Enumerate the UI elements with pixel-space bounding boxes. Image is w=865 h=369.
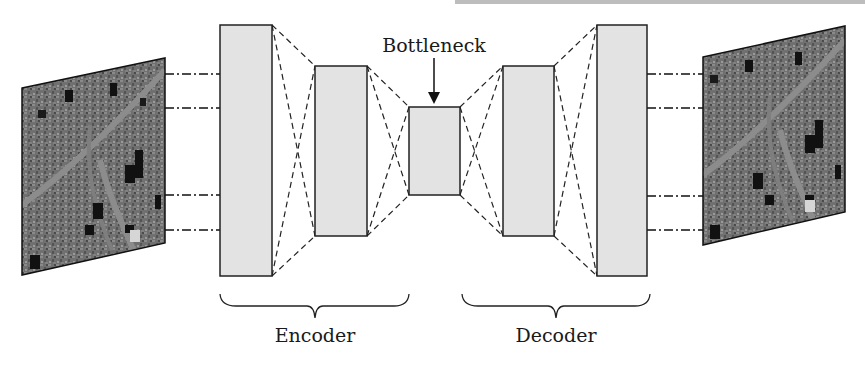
input-connectors [165,74,220,230]
output-connectors [647,74,703,230]
bottleneck-layer [409,107,460,195]
bottleneck-arrow-icon [428,58,440,104]
decoder-layer-2 [597,25,647,276]
bottleneck-label: Bottleneck [382,34,486,56]
decoder-layer-1 [503,66,554,236]
autoencoder-diagram: Bottleneck Encoder Decoder [0,0,865,369]
encoder-label: Encoder [275,324,357,346]
encoder-brace [220,294,409,318]
decoder-label: Decoder [515,324,597,346]
encoder-layer-1 [220,25,272,276]
cropped-title-text [455,0,865,4]
encoder-layer-2 [315,66,367,236]
input-satellite-image [20,55,170,280]
output-satellite-image [700,22,850,247]
decoder-brace [462,294,650,318]
